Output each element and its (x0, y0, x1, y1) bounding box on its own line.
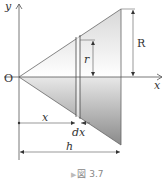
cone-diagram (0, 0, 168, 182)
small-radius-label: r (84, 54, 89, 65)
height-label: h (66, 141, 73, 152)
thickness-label: dx (72, 127, 85, 138)
x-axis-label: x (154, 80, 160, 91)
y-axis-label: y (5, 1, 11, 12)
caption-marker-icon: ▶ (71, 171, 76, 179)
figure-caption: ▶図 3.7 (71, 167, 104, 180)
caption-text: 図 3.7 (77, 169, 103, 179)
origin-label: O (4, 73, 13, 84)
big-radius-label: R (137, 38, 145, 49)
distance-label: x (42, 112, 48, 123)
